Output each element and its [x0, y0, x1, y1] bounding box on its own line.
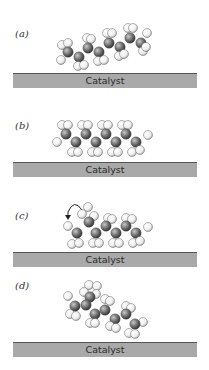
catalyst-surface: Catalyst — [13, 73, 197, 88]
catalyst-label: Catalyst — [13, 254, 197, 265]
catalyst-surface: Catalyst — [13, 342, 197, 357]
panel-d: (d) Catalyst — [0, 272, 209, 370]
panel-b: (b) Catalyst — [0, 92, 209, 182]
catalyst-label: Catalyst — [13, 164, 197, 175]
catalyst-label: Catalyst — [13, 75, 197, 86]
catalyst-surface: Catalyst — [13, 162, 197, 177]
catalyst-surface: Catalyst — [13, 252, 197, 267]
panel-c: (c) Catalyst — [0, 182, 209, 272]
catalyst-label: Catalyst — [13, 344, 197, 355]
panel-a: (a) Catalyst — [0, 0, 209, 92]
